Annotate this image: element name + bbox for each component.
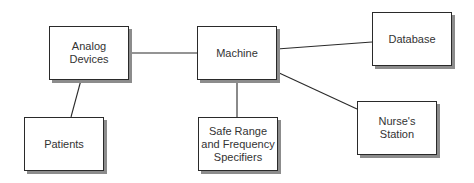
node-machine: Machine [197, 26, 277, 80]
system-block-diagram: Analog Devices Machine Database Patients… [0, 0, 474, 183]
node-safe-range-frequency-specifiers: Safe Range and Frequency Specifiers [198, 117, 278, 171]
node-nurses-station: Nurse's Station [357, 101, 437, 155]
node-label: Patients [44, 138, 84, 151]
edge-analog-patients [71, 80, 81, 117]
edge-machine-database [277, 42, 372, 49]
node-label: Nurse's Station [379, 115, 416, 141]
node-database: Database [372, 12, 452, 66]
node-label: Database [388, 33, 435, 46]
node-label: Analog Devices [69, 40, 108, 66]
node-label: Machine [216, 47, 258, 60]
node-label: Safe Range and Frequency Specifiers [201, 125, 274, 164]
node-analog-devices: Analog Devices [49, 26, 129, 80]
node-patients: Patients [24, 117, 104, 171]
edge-machine-nurses-station [277, 72, 357, 109]
